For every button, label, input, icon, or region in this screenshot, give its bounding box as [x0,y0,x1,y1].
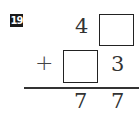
plus-operator: + [35,52,53,74]
result-ones-digit: 7 [111,91,124,112]
result-tens-digit: 7 [74,91,87,112]
row1-ones-answer-box[interactable] [99,14,134,46]
row2-tens-answer-box[interactable] [63,50,98,83]
row1-tens-digit: 4 [75,16,88,37]
problem-number-badge: 19 [10,14,23,27]
row2-ones-digit: 3 [111,54,124,75]
